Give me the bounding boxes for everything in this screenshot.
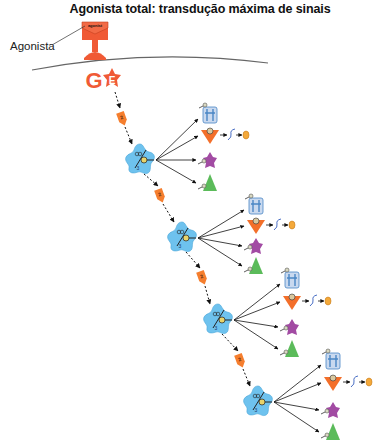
ion-channel-icon bbox=[199, 103, 217, 123]
ligand-oval-icon bbox=[325, 297, 331, 305]
arrow bbox=[234, 320, 278, 327]
dashed-arrow bbox=[222, 334, 238, 351]
arrow bbox=[198, 226, 244, 238]
signal-chain-icon bbox=[351, 376, 358, 387]
arrow bbox=[234, 284, 280, 320]
arrow bbox=[274, 365, 321, 402]
arrow bbox=[234, 320, 278, 349]
purple-protein-icon bbox=[244, 238, 263, 254]
arrow bbox=[198, 210, 244, 238]
enzyme-badge: 3 bbox=[137, 165, 140, 171]
triangle-protein-icon bbox=[324, 375, 372, 391]
dashed-arrow bbox=[115, 92, 120, 108]
dashed-arrow bbox=[205, 286, 210, 304]
signal-chain-icon bbox=[228, 129, 235, 140]
enzyme-badge: 3 bbox=[179, 243, 182, 249]
effector-label: E bbox=[109, 75, 116, 86]
green-protein-icon bbox=[280, 340, 299, 357]
purple-protein-icon bbox=[198, 152, 217, 168]
enzyme-star-icon: 3 bbox=[126, 144, 155, 174]
signal-chain-icon bbox=[274, 219, 281, 230]
ligand-oval-icon bbox=[243, 131, 249, 139]
ligand-oval-icon bbox=[366, 378, 372, 386]
triangle-protein-icon bbox=[201, 128, 249, 144]
kinase-icon: 2 bbox=[154, 188, 166, 204]
agonist-box-label: agonist bbox=[88, 23, 103, 28]
dashed-arrow bbox=[243, 369, 250, 386]
enzyme-star-icon: 3 bbox=[204, 304, 233, 334]
ligand-oval-icon bbox=[289, 221, 295, 229]
signal-cascade-diagram: agonist G E 23232323 bbox=[0, 0, 390, 445]
enzyme-badge: 3 bbox=[255, 407, 258, 413]
cell-membrane bbox=[32, 57, 268, 70]
cascade-level-4: 23 bbox=[234, 349, 372, 440]
enzyme-star-icon: 3 bbox=[168, 222, 197, 252]
green-protein-icon bbox=[198, 174, 217, 191]
receptor: agonist bbox=[82, 22, 108, 60]
triangle-protein-icon bbox=[247, 218, 295, 234]
arrow bbox=[274, 402, 319, 432]
arrow bbox=[274, 402, 319, 410]
dashed-arrow bbox=[163, 204, 174, 222]
kinase-icon: 2 bbox=[234, 353, 246, 369]
kinase-icon: 2 bbox=[196, 270, 208, 286]
dashed-arrow bbox=[186, 252, 200, 268]
ion-channel-icon bbox=[245, 194, 263, 214]
triangle-protein-icon bbox=[283, 294, 331, 310]
dashed-arrow bbox=[144, 174, 158, 186]
arrow bbox=[156, 160, 196, 183]
ion-channel-icon bbox=[281, 268, 299, 288]
dashed-arrow bbox=[125, 127, 132, 144]
cascade-level-2: 23 bbox=[154, 188, 295, 274]
ion-channel-icon bbox=[322, 349, 340, 369]
cascade-level-1: 23 bbox=[116, 103, 249, 191]
enzyme-star-icon: 3 bbox=[244, 386, 273, 416]
g-protein-label: G bbox=[85, 68, 102, 93]
signal-chain-icon bbox=[310, 295, 317, 306]
green-protein-icon bbox=[244, 257, 263, 274]
agonist-callout-line bbox=[52, 26, 85, 45]
arrow bbox=[234, 302, 280, 320]
green-protein-icon bbox=[321, 423, 340, 440]
kinase-icon: 2 bbox=[116, 111, 128, 127]
purple-protein-icon bbox=[321, 402, 340, 418]
cascade-level-3: 23 bbox=[196, 268, 331, 357]
arrow bbox=[274, 383, 321, 402]
purple-protein-icon bbox=[280, 319, 299, 335]
g-protein-effector: G E bbox=[85, 68, 121, 93]
enzyme-badge: 3 bbox=[215, 325, 218, 331]
